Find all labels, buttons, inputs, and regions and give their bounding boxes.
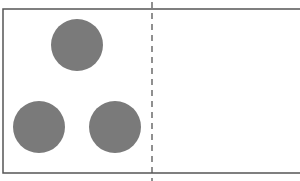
diagram-canvas (0, 0, 300, 181)
circle-top (51, 19, 103, 71)
circle-bottom-right (89, 101, 141, 153)
circle-group (13, 19, 141, 153)
circle-bottom-left (13, 101, 65, 153)
